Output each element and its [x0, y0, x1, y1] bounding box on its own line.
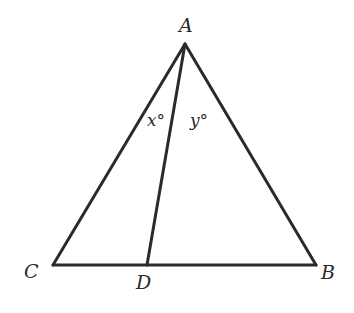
- vertex-label-b: B: [321, 263, 335, 282]
- triangle-figure: [0, 0, 354, 313]
- segment-ab: [185, 44, 316, 265]
- angle-label-y: y°: [190, 112, 208, 129]
- vertex-label-a: A: [179, 16, 193, 35]
- vertex-label-c: C: [24, 262, 39, 281]
- triangle-diagram: A B C D x° y°: [0, 0, 354, 313]
- angle-label-x: x°: [147, 112, 165, 129]
- vertex-label-d: D: [136, 273, 151, 292]
